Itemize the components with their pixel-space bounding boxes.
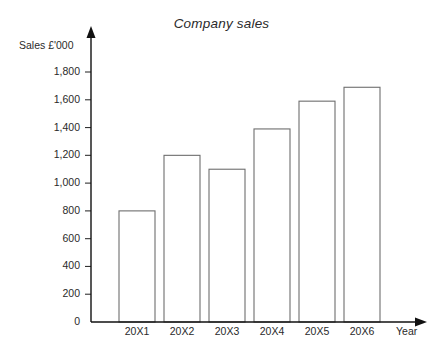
y-tick-label: 1,000 bbox=[28, 176, 80, 188]
bar-chart-figure: Company sales Sales £'000 Year 020040060… bbox=[0, 0, 443, 357]
y-tick-label: 800 bbox=[28, 204, 80, 216]
x-tick-label: 20X6 bbox=[336, 325, 388, 337]
bar bbox=[299, 101, 335, 322]
bar bbox=[119, 211, 155, 322]
bars-group bbox=[119, 87, 380, 322]
y-tick-label: 600 bbox=[28, 232, 80, 244]
x-axis-arrow-icon bbox=[415, 318, 427, 327]
y-tick-label: 1,600 bbox=[28, 93, 80, 105]
y-tick-label: 0 bbox=[28, 315, 80, 327]
bar bbox=[209, 169, 245, 322]
y-tick-label: 200 bbox=[28, 287, 80, 299]
bar bbox=[254, 129, 290, 322]
bar bbox=[164, 155, 200, 322]
y-tick-label: 1,200 bbox=[28, 148, 80, 160]
bar bbox=[344, 87, 380, 322]
y-tick-label: 1,400 bbox=[28, 121, 80, 133]
y-axis-arrow-icon bbox=[87, 26, 96, 38]
y-tick-label: 1,800 bbox=[28, 65, 80, 77]
y-tick-marks-group bbox=[85, 72, 91, 294]
y-tick-label: 400 bbox=[28, 259, 80, 271]
